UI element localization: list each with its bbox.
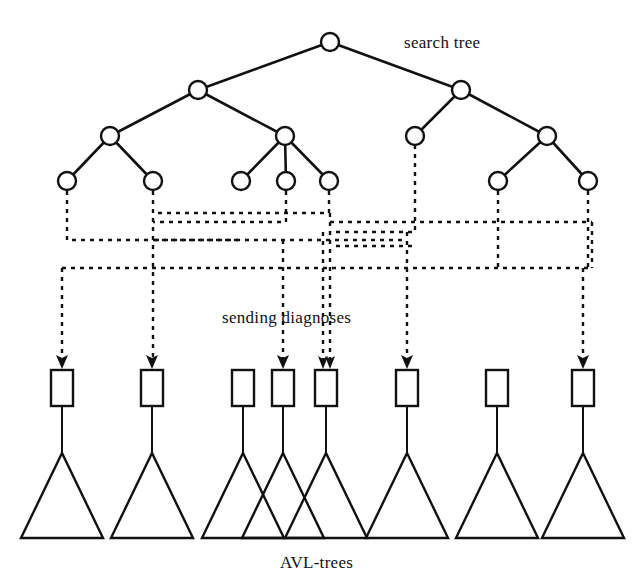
- arrowhead-B6: [401, 355, 413, 369]
- avl-triangle-2[interactable]: [111, 453, 193, 538]
- tree-node-L3d[interactable]: [277, 172, 295, 190]
- tree-node-root[interactable]: [321, 33, 339, 51]
- site-box-B7[interactable]: [486, 370, 508, 406]
- site-boxes: [51, 370, 594, 406]
- tree-node-L1b[interactable]: [452, 81, 470, 99]
- avl-triangle-7[interactable]: [456, 453, 538, 538]
- diagnose-link-L3e: [155, 191, 329, 213]
- tree-node-L2d[interactable]: [538, 127, 556, 145]
- tree-node-L2b[interactable]: [276, 127, 294, 145]
- diagnose-link-L3a: [67, 191, 243, 240]
- arrowhead-B2: [146, 355, 158, 369]
- tree-node-L3a[interactable]: [58, 172, 76, 190]
- avl-triangles: [21, 453, 624, 538]
- tree-node-L2a[interactable]: [101, 127, 119, 145]
- site-box-B4[interactable]: [272, 370, 294, 406]
- site-box-B8[interactable]: [572, 370, 594, 406]
- avl-triangle-6[interactable]: [366, 453, 448, 538]
- edge-L1b-L2d: [461, 90, 547, 136]
- diagnose-arrowheads: [56, 355, 589, 369]
- arrowhead-B1: [56, 355, 68, 369]
- edge-L1a-L2b: [198, 90, 285, 136]
- arrowhead-B8: [577, 355, 589, 369]
- tree-node-L3c[interactable]: [232, 172, 250, 190]
- search-tree-edges: [67, 42, 588, 181]
- sending-diagnoses-label: sending diagnoses: [222, 308, 351, 327]
- tree-node-L1a[interactable]: [189, 81, 207, 99]
- tree-node-L2c[interactable]: [406, 127, 424, 145]
- diagnose-link-L2c: [330, 145, 415, 232]
- edge-L1a-L2a: [110, 90, 198, 136]
- avl-triangle-3[interactable]: [202, 453, 284, 538]
- edge-root-L1a: [198, 42, 330, 90]
- tree-node-L3f[interactable]: [489, 172, 507, 190]
- tree-node-L3g[interactable]: [579, 172, 597, 190]
- avl-trees-label: AVL-trees: [280, 553, 353, 571]
- figure-canvas: search tree sending diagnoses AVL-trees: [0, 0, 638, 571]
- search-tree-label: search tree: [404, 33, 480, 52]
- avl-triangle-8[interactable]: [542, 453, 624, 538]
- tree-node-L3b[interactable]: [144, 172, 162, 190]
- site-box-B1[interactable]: [51, 370, 73, 406]
- site-box-B5[interactable]: [315, 370, 337, 406]
- site-box-B6[interactable]: [396, 370, 418, 406]
- avl-triangle-5[interactable]: [285, 453, 367, 538]
- box-to-tree-stems: [62, 406, 583, 453]
- avl-triangle-1[interactable]: [21, 453, 103, 538]
- site-box-B3[interactable]: [232, 370, 254, 406]
- distributed-search-tree-diagram: search tree sending diagnoses AVL-trees: [0, 0, 638, 571]
- site-box-B2[interactable]: [141, 370, 163, 406]
- diagnose-link-L3d: [153, 191, 286, 222]
- tree-node-L3e[interactable]: [320, 172, 338, 190]
- avl-triangle-4[interactable]: [242, 453, 324, 538]
